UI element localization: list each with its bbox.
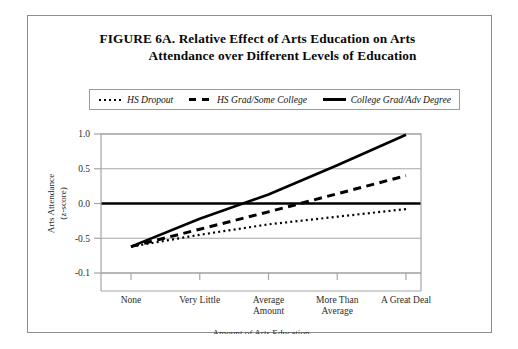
series-line-dashed [131,176,406,247]
series-line-dotted [131,209,406,247]
series-lines [131,135,406,247]
chart-plot-area: 1.00.50.0-0.5-0.1 NoneVery LittleAverage… [28,16,493,334]
y-axis-title-line-1: Arts Attendance [46,174,56,233]
y-axis-title: Arts Attendance(z-score) [46,174,68,233]
y-tick-label: -0.5 [75,234,90,244]
x-tick-label: Amount [253,306,285,316]
x-axis-title: Amount of Arts Education [212,328,310,334]
x-axis-tick-labels: NoneVery LittleAverageAmountMore ThanAve… [121,295,432,316]
figure-container: FIGURE 6A. Relative Effect of Arts Educa… [27,15,492,333]
chart-svg: 1.00.50.0-0.5-0.1 NoneVery LittleAverage… [28,16,493,334]
x-tick-label: Very Little [179,295,220,305]
x-tick-label: Average [253,295,284,305]
y-axis-tick-labels: 1.00.50.0-0.5-0.1 [75,129,90,278]
y-tick-label: 0.5 [78,164,90,174]
x-tick-label: None [121,295,142,305]
series-line-solid [131,135,406,247]
x-tick-label: More Than [316,295,359,305]
x-tick-label: Average [322,306,353,316]
y-tick-label: 0.0 [78,199,90,209]
x-tick-label: A Great Deal [381,295,431,305]
y-tick-label: -0.1 [75,268,90,278]
y-tick-label: 1.0 [78,129,90,139]
y-axis-title-line-2: (z-score) [58,187,68,220]
x-axis-title-text: Amount of Arts Education [212,328,310,334]
x-axis-ticks [131,273,406,280]
y-axis-ticks [94,134,101,273]
